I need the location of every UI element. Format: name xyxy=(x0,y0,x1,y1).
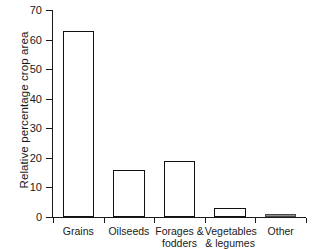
y-axis-tick xyxy=(46,128,52,129)
y-axis-tick-label: 0 xyxy=(2,212,42,223)
y-axis-tick xyxy=(46,99,52,100)
y-axis-tick-label: 70 xyxy=(2,5,42,16)
x-axis-line xyxy=(52,217,306,218)
bar[interactable] xyxy=(63,31,94,217)
x-axis-category-label: Vegetables & legumes xyxy=(205,225,256,249)
x-axis-tick xyxy=(205,218,206,223)
y-axis-tick xyxy=(46,69,52,70)
y-axis-line xyxy=(52,10,53,218)
y-axis-tick xyxy=(46,187,52,188)
y-axis-tick-label: 30 xyxy=(2,123,42,134)
y-axis-tick xyxy=(46,158,52,159)
y-axis-tick-label: 40 xyxy=(2,94,42,105)
y-axis-tick-label: 20 xyxy=(2,153,42,164)
y-axis-tick xyxy=(46,10,52,11)
x-axis-tick xyxy=(53,218,54,223)
x-axis-category-label: Other xyxy=(255,225,306,237)
x-axis-category-label: Oilseeds xyxy=(104,225,155,237)
bar[interactable] xyxy=(113,170,144,217)
x-axis-tick xyxy=(306,218,307,223)
y-axis-tick-label: 10 xyxy=(2,182,42,193)
bar[interactable] xyxy=(265,214,296,217)
bar[interactable] xyxy=(164,161,195,217)
bar[interactable] xyxy=(214,208,245,217)
y-axis-tick-label: 50 xyxy=(2,64,42,75)
y-axis-tick-label: 60 xyxy=(2,35,42,46)
y-axis-tick xyxy=(46,40,52,41)
x-axis-tick xyxy=(255,218,256,223)
x-axis-tick xyxy=(154,218,155,223)
y-axis-tick xyxy=(46,217,52,218)
x-axis-tick xyxy=(104,218,105,223)
x-axis-category-label: Forages & fodders xyxy=(154,225,205,249)
x-axis-category-label: Grains xyxy=(53,225,104,237)
